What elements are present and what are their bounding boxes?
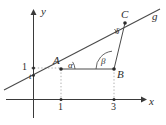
tick-dot-y1 xyxy=(32,67,35,70)
point-marker-B xyxy=(112,67,116,71)
point-label-C: C xyxy=(121,9,128,20)
point-marker-C xyxy=(123,21,127,25)
point-label-B: B xyxy=(117,69,124,80)
angle-label-alpha: α xyxy=(68,61,73,70)
x-tick-label-1: 1 xyxy=(58,102,63,112)
y-tick-label-1: 1 xyxy=(22,62,27,72)
helper-dotted-lines xyxy=(31,68,114,99)
point-marker-A xyxy=(59,67,63,71)
line-label-g: g xyxy=(152,11,158,22)
geometry-figure: y x 1 3 1 g t A B C α β δ xyxy=(0,0,166,125)
angle-label-delta: δ xyxy=(115,27,119,36)
y-axis-label: y xyxy=(41,6,46,17)
point-label-A: A xyxy=(53,55,60,66)
line-intercept-label-t: t xyxy=(29,72,32,81)
angle-label-beta: β xyxy=(101,57,105,66)
x-axis-label: x xyxy=(149,96,154,107)
line-g xyxy=(4,9,160,90)
point-marker-t xyxy=(32,74,35,77)
x-tick-label-3: 3 xyxy=(111,102,116,112)
